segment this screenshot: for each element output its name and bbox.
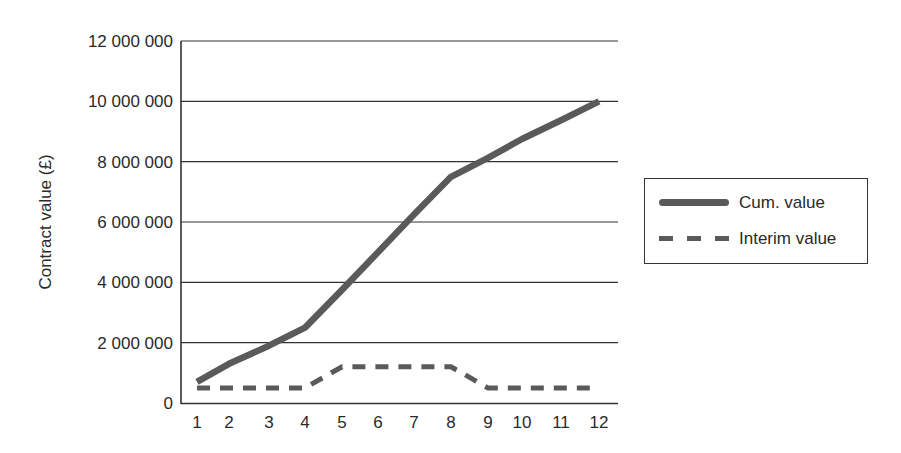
y-axis-label: Contract value (£) [36, 154, 55, 289]
legend-label: Interim value [739, 229, 836, 249]
gridlines [181, 41, 618, 343]
legend-label: Cum. value [739, 193, 825, 213]
y-tick-label: 2 000 000 [97, 334, 173, 353]
x-tick-label: 12 [590, 413, 609, 432]
x-tick-label: 9 [483, 413, 492, 432]
y-tick-label: 12 000 000 [88, 32, 173, 51]
x-tick-label: 5 [337, 413, 346, 432]
x-tick-label: 3 [264, 413, 273, 432]
x-tick-label: 4 [300, 413, 309, 432]
interim-value-line [197, 367, 599, 388]
y-axis-ticks: 02 000 0004 000 0006 000 0008 000 00010 … [88, 32, 173, 413]
legend: Cum. value Interim value [644, 178, 868, 264]
x-tick-label: 2 [224, 413, 233, 432]
x-tick-label: 10 [513, 413, 532, 432]
cum-value-line [197, 101, 599, 382]
x-tick-label: 11 [552, 413, 570, 432]
y-tick-label: 0 [164, 394, 173, 413]
dashed-line-swatch-icon [659, 234, 729, 244]
y-tick-label: 8 000 000 [97, 153, 173, 172]
x-tick-label: 8 [446, 413, 455, 432]
solid-line-swatch-icon [659, 198, 729, 208]
legend-item-cum-value: Cum. value [659, 193, 825, 213]
y-tick-label: 4 000 000 [97, 273, 173, 292]
x-tick-label: 6 [373, 413, 382, 432]
legend-item-interim-value: Interim value [659, 229, 836, 249]
x-tick-label: 1 [192, 413, 201, 432]
y-tick-label: 6 000 000 [97, 213, 173, 232]
y-tick-label: 10 000 000 [88, 92, 173, 111]
x-axis-ticks: 123456789101112 [192, 413, 608, 432]
x-tick-label: 7 [409, 413, 418, 432]
